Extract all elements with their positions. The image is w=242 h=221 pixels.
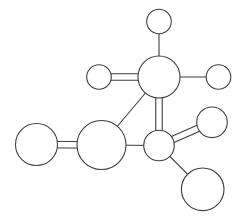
- atom-upper-right: [197, 107, 228, 138]
- atom-left-small: [87, 65, 112, 90]
- atom-middle: [77, 121, 126, 170]
- atom-far-left: [16, 124, 58, 166]
- atom-right-small: [206, 65, 231, 90]
- atom-junction: [144, 130, 175, 161]
- atom-center: [138, 56, 180, 98]
- atom-top: [147, 9, 172, 34]
- atom-lower-right: [181, 168, 224, 211]
- molecule-diagram: [0, 0, 242, 221]
- bonds-layer: [36, 22, 218, 190]
- atoms-layer: [16, 9, 231, 210]
